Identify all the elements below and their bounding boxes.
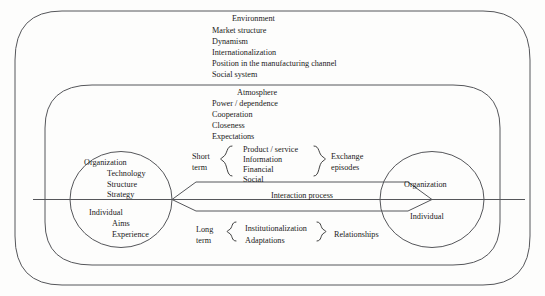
short-term-close-brace	[314, 146, 325, 176]
left-party-individual-item-0: Aims	[112, 219, 130, 229]
atmosphere-item-0: Power / dependence	[212, 99, 278, 109]
atmosphere-item-2: Closeness	[212, 121, 245, 131]
short-term-label-line1: Short	[192, 152, 210, 162]
long-term-item-0: Institutionalization	[245, 224, 307, 234]
long-term-item-1: Adaptations	[245, 236, 285, 246]
environment-item-2: Internationalization	[212, 48, 276, 58]
atmosphere-item-1: Cooperation	[212, 110, 252, 120]
long-term-label-line1: Long	[196, 225, 213, 235]
short-term-item-0: Product / service	[243, 145, 298, 155]
exchange-episodes-label-line1: Exchange	[331, 152, 363, 162]
interaction-process-label: Interaction process	[232, 191, 372, 201]
long-term-open-brace	[227, 222, 236, 241]
short-term-item-1: Information	[243, 155, 282, 165]
short-term-item-2: Financial	[243, 165, 273, 175]
left-party-organization-item-0: Technology	[107, 169, 146, 179]
environment-item-3: Position in the manufacturing channel	[212, 59, 337, 69]
right-party-organization-heading: Organization	[404, 180, 447, 190]
left-party-individual-item-1: Experience	[112, 230, 149, 240]
left-party-organization-item-1: Structure	[107, 180, 137, 190]
short-term-item-3: Social	[243, 175, 263, 185]
relationships-label: Relationships	[334, 230, 379, 240]
environment-item-1: Dynamism	[212, 37, 248, 47]
left-party-organization-item-2: Strategy	[107, 190, 134, 200]
exchange-episodes-label-line2: episodes	[331, 163, 359, 173]
right-party-individual-heading: Individual	[410, 212, 444, 222]
left-party-organization-heading: Organization	[84, 158, 127, 168]
short-term-open-brace	[221, 146, 232, 176]
short-term-label-line2: term	[192, 163, 207, 173]
left-party-individual-heading: Individual	[89, 208, 123, 218]
environment-item-4: Social system	[212, 70, 257, 80]
environment-item-0: Market structure	[212, 26, 266, 36]
environment-heading: Environment	[232, 14, 275, 24]
diagram-canvas: Environment Market structure Dynamism In…	[0, 0, 545, 296]
atmosphere-heading: Atmosphere	[237, 88, 277, 98]
long-term-label-line2: term	[196, 236, 211, 246]
atmosphere-item-3: Expectations	[212, 132, 254, 142]
long-term-close-brace	[317, 222, 326, 241]
